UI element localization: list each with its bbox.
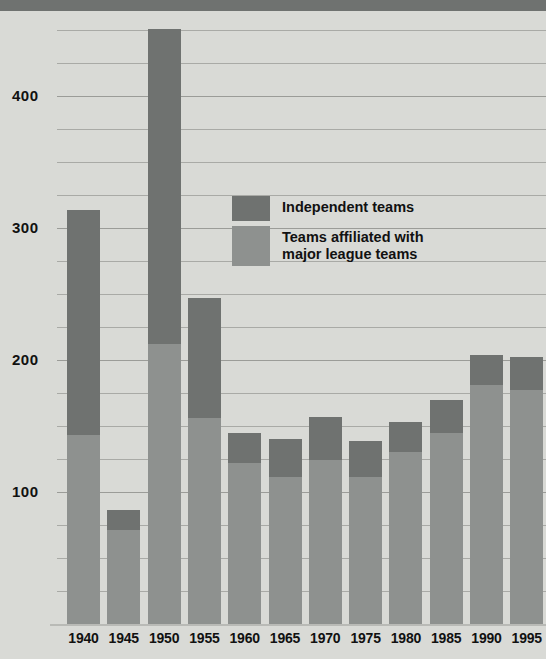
gridline-450 xyxy=(57,30,546,31)
bar-segment-affiliated-1985 xyxy=(430,433,463,624)
legend-item-independent: Independent teams xyxy=(232,196,424,221)
x-tick-label-1985: 1985 xyxy=(424,630,468,646)
gridline-250 xyxy=(57,294,546,295)
bar-segment-affiliated-1965 xyxy=(269,477,302,624)
bar-segment-affiliated-1995 xyxy=(510,390,543,624)
bar-1995 xyxy=(510,357,543,624)
header-band xyxy=(0,0,546,11)
bar-1940 xyxy=(67,210,100,624)
x-tick-label-1945: 1945 xyxy=(102,630,146,646)
minor-league-teams-stacked-bar-chart: 100200300400 194019451950195519601965197… xyxy=(0,0,546,659)
bar-segment-independent-1965 xyxy=(269,439,302,477)
bar-segment-independent-1995 xyxy=(510,357,543,390)
bar-1980 xyxy=(389,422,422,624)
bar-segment-independent-1945 xyxy=(107,510,140,530)
bar-1955 xyxy=(188,298,221,624)
x-tick-label-1950: 1950 xyxy=(142,630,186,646)
x-tick-label-1955: 1955 xyxy=(182,630,226,646)
x-tick-label-1970: 1970 xyxy=(303,630,347,646)
bar-segment-independent-1960 xyxy=(228,433,261,463)
bar-segment-independent-1950 xyxy=(148,29,181,344)
x-axis-baseline xyxy=(50,624,546,626)
bar-segment-affiliated-1950 xyxy=(148,344,181,624)
bar-segment-affiliated-1970 xyxy=(309,460,342,624)
bar-segment-independent-1985 xyxy=(430,400,463,433)
legend-label-independent: Independent teams xyxy=(282,196,414,216)
chart-legend: Independent teams Teams affiliated with … xyxy=(232,196,424,271)
y-tick-label-200: 200 xyxy=(12,351,39,368)
bar-segment-independent-1940 xyxy=(67,210,100,436)
bar-segment-independent-1955 xyxy=(188,298,221,418)
x-tick-label-1940: 1940 xyxy=(62,630,106,646)
legend-swatch-independent-icon xyxy=(232,196,270,221)
bar-segment-independent-1990 xyxy=(470,355,503,385)
legend-label-affiliated: Teams affiliated with major league teams xyxy=(282,226,424,262)
bar-segment-independent-1980 xyxy=(389,422,422,452)
gridline-350 xyxy=(57,162,546,163)
bar-1990 xyxy=(470,355,503,624)
gridline-375 xyxy=(57,129,546,130)
legend-item-affiliated: Teams affiliated with major league teams xyxy=(232,226,424,266)
bar-segment-independent-1970 xyxy=(309,417,342,461)
bar-segment-affiliated-1980 xyxy=(389,452,422,624)
gridline-400 xyxy=(57,96,546,97)
x-tick-label-1960: 1960 xyxy=(223,630,267,646)
bar-segment-affiliated-1975 xyxy=(349,477,382,624)
x-tick-label-1975: 1975 xyxy=(344,630,388,646)
bar-segment-affiliated-1955 xyxy=(188,418,221,624)
x-tick-label-1990: 1990 xyxy=(465,630,509,646)
bar-segment-affiliated-1940 xyxy=(67,435,100,624)
x-tick-label-1995: 1995 xyxy=(505,630,546,646)
bar-1970 xyxy=(309,417,342,624)
bar-segment-affiliated-1945 xyxy=(107,530,140,624)
bar-segment-affiliated-1960 xyxy=(228,463,261,624)
gridline-425 xyxy=(57,63,546,64)
bar-segment-independent-1975 xyxy=(349,441,382,478)
y-tick-label-100: 100 xyxy=(12,483,39,500)
bar-1975 xyxy=(349,441,382,624)
y-tick-label-400: 400 xyxy=(12,87,39,104)
bar-segment-affiliated-1990 xyxy=(470,385,503,624)
plot-area xyxy=(57,11,546,624)
bar-1945 xyxy=(107,510,140,624)
bar-1985 xyxy=(430,400,463,624)
x-tick-label-1980: 1980 xyxy=(384,630,428,646)
bar-1950 xyxy=(148,29,181,624)
bar-1965 xyxy=(269,439,302,624)
legend-swatch-affiliated-icon xyxy=(232,226,270,266)
y-tick-label-300: 300 xyxy=(12,219,39,236)
x-tick-label-1965: 1965 xyxy=(263,630,307,646)
bar-1960 xyxy=(228,433,261,624)
gridline-225 xyxy=(57,327,546,328)
